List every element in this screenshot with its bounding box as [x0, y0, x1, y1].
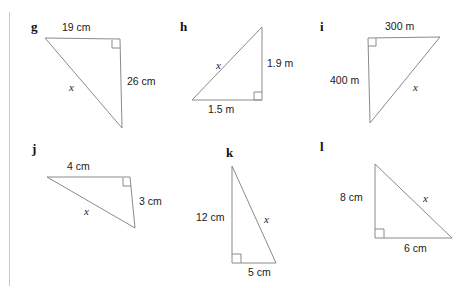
- figure-l: l 6 cm 8 cm x: [0, 0, 475, 288]
- figure-l-side-a-label: 6 cm: [404, 243, 427, 254]
- figure-l-hypotenuse-label: x: [423, 193, 428, 204]
- figure-l-side-b-label: 8 cm: [340, 192, 363, 203]
- worksheet-page: g 19 cm 26 cm x h 1.5 m 1.9 m x i 300 m …: [0, 0, 475, 288]
